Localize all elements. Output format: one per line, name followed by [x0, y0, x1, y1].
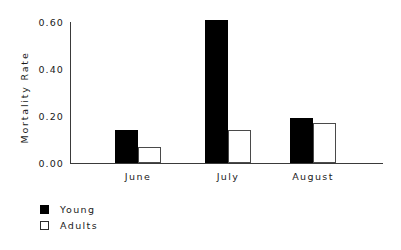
bar-july-adults: [228, 130, 251, 163]
y-axis-tick-text: 0.00: [38, 158, 64, 169]
x-axis-tick-label-august: August: [292, 171, 334, 182]
bar-august-young: [290, 118, 313, 163]
y-axis-tick-text: 0.60: [38, 17, 64, 28]
x-axis-tick-label-july: July: [217, 171, 240, 182]
legend-label: Adults: [60, 220, 98, 231]
y-axis-tick-text: 0.40: [38, 64, 64, 75]
filled-square-icon: [40, 205, 49, 214]
chart-legend: YoungAdults: [40, 201, 98, 233]
bar-july-young: [205, 20, 228, 163]
bar-august-adults: [313, 123, 336, 163]
y-axis-title: Mortality Rate: [19, 33, 30, 163]
legend-label: Young: [60, 204, 95, 215]
bar-june-adults: [138, 147, 161, 163]
y-axis-tick-text: 0.20: [38, 111, 64, 122]
plot-area: [70, 22, 383, 163]
bar-june-young: [115, 130, 138, 163]
legend-item-adults: Adults: [40, 217, 98, 233]
legend-item-young: Young: [40, 201, 98, 217]
mortality-rate-bar-chart: Mortality Rate 0.000.200.400.60 JuneJuly…: [0, 0, 401, 250]
x-axis-tick-label-june: June: [125, 171, 151, 182]
x-axis-line: [70, 163, 383, 164]
open-square-icon: [40, 221, 49, 230]
